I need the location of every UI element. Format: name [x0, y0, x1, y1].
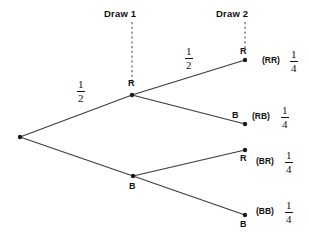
stage-label-draw-1: Draw 1 — [104, 9, 136, 19]
node-root-dot — [18, 135, 22, 139]
outcome-label-br: (BR) — [256, 157, 274, 166]
edge-r-to-rb — [132, 95, 245, 124]
branch-probability-r-to-rr: 1 2 — [185, 46, 193, 71]
edge-root-to-r — [20, 95, 132, 137]
outcome-label-rb: (RB) — [252, 112, 270, 121]
branch-probability-r-to-rr-denominator: 2 — [185, 59, 193, 71]
node-label-r-draw2-rr: R — [240, 47, 247, 56]
outcome-probability-br-denominator: 4 — [285, 163, 293, 175]
outcome-probability-bb-denominator: 4 — [285, 213, 293, 225]
node-bb-dot — [243, 213, 247, 217]
node-label-r-draw1: R — [128, 79, 135, 88]
outcome-probability-rb-denominator: 4 — [281, 118, 289, 130]
outcome-probability-rr-numerator: 1 — [290, 49, 298, 62]
outcome-label-bb: (BB) — [256, 207, 274, 216]
outcome-label-rr: (RR) — [262, 56, 280, 65]
outcome-probability-br-numerator: 1 — [285, 150, 293, 163]
node-b1-dot — [131, 174, 135, 178]
edge-b-to-bb — [133, 176, 245, 215]
node-rb-dot — [243, 122, 247, 126]
node-br-dot — [243, 148, 247, 152]
probability-tree-diagram: Draw 1 Draw 2 R B R B R B 1 2 1 2 (RR) 1… — [0, 0, 309, 243]
outcome-probability-rb: 1 4 — [281, 105, 289, 130]
branch-probability-r-to-rr-numerator: 1 — [185, 46, 193, 59]
outcome-probability-rr: 1 4 — [290, 49, 298, 74]
outcome-probability-rr-denominator: 4 — [290, 62, 298, 74]
node-label-b-draw1: B — [129, 182, 136, 191]
node-r1-dot — [130, 93, 134, 97]
outcome-probability-br: 1 4 — [285, 150, 293, 175]
node-label-r-draw2-br: R — [240, 154, 247, 163]
stage-label-draw-2: Draw 2 — [216, 9, 248, 19]
branch-probability-root-to-r: 1 2 — [77, 79, 85, 104]
node-label-b-draw2-rb: B — [232, 111, 239, 120]
branch-probability-root-to-r-numerator: 1 — [77, 79, 85, 92]
outcome-probability-bb: 1 4 — [285, 200, 293, 225]
outcome-probability-bb-numerator: 1 — [285, 200, 293, 213]
outcome-probability-rb-numerator: 1 — [281, 105, 289, 118]
branch-probability-root-to-r-denominator: 2 — [77, 92, 85, 104]
edge-root-to-b — [20, 137, 133, 176]
edge-b-to-br — [133, 150, 245, 176]
node-rr-dot — [243, 58, 247, 62]
node-label-b-draw2-bb: B — [240, 220, 247, 229]
